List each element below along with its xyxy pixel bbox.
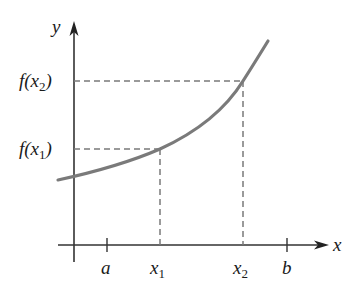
tick-label-a: a bbox=[101, 257, 111, 278]
function-graph-diagram: y x a x1 x2 b f(x2) f(x1) bbox=[0, 0, 353, 304]
function-curve bbox=[58, 41, 268, 180]
label-f-x2: f(x2) bbox=[19, 70, 52, 94]
tick-label-x1: x1 bbox=[149, 257, 165, 281]
tick-label-b: b bbox=[282, 257, 292, 278]
label-f-x1: f(x1) bbox=[19, 138, 52, 162]
tick-label-x2: x2 bbox=[232, 257, 248, 281]
graph-canvas: y x a x1 x2 b f(x2) f(x1) bbox=[0, 0, 353, 304]
y-axis-label: y bbox=[50, 16, 61, 37]
x-axis-label: x bbox=[332, 234, 342, 255]
